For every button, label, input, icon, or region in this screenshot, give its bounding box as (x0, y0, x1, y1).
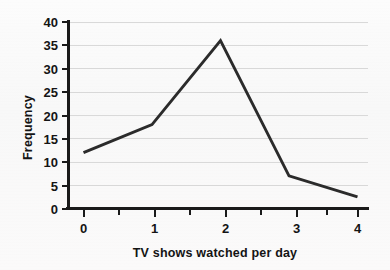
x-tick-label-2: 2 (222, 221, 229, 236)
x-tick-marks (84, 209, 358, 217)
y-tick-label-0: 0 (51, 202, 58, 217)
y-tick-label-30: 30 (44, 62, 58, 77)
y-tick-label-25: 25 (44, 85, 58, 100)
y-tick-label-35: 35 (44, 38, 58, 53)
chart-container: 40 35 30 25 20 15 10 5 0 0 1 (0, 0, 390, 270)
y-tick-label-5: 5 (51, 179, 58, 194)
x-tick-label-3: 3 (293, 221, 300, 236)
y-tick-label-10: 10 (44, 155, 58, 170)
x-tick-label-4: 4 (354, 221, 362, 236)
y-tick-label-20: 20 (44, 109, 58, 124)
y-tick-label-40: 40 (44, 15, 58, 30)
frequency-line-series (84, 41, 358, 197)
gridlines (68, 22, 368, 186)
y-axis-title: Frequency (21, 95, 35, 160)
line-chart: 40 35 30 25 20 15 10 5 0 0 1 (0, 0, 390, 270)
x-tick-label-0: 0 (80, 221, 87, 236)
x-tick-label-1: 1 (151, 221, 158, 236)
x-axis-title: TV shows watched per day (133, 246, 298, 260)
y-tick-marks (62, 22, 68, 209)
x-tick-labels: 0 1 2 3 4 (80, 221, 362, 236)
y-tick-label-15: 15 (44, 132, 58, 147)
y-tick-labels: 40 35 30 25 20 15 10 5 0 (44, 15, 58, 217)
